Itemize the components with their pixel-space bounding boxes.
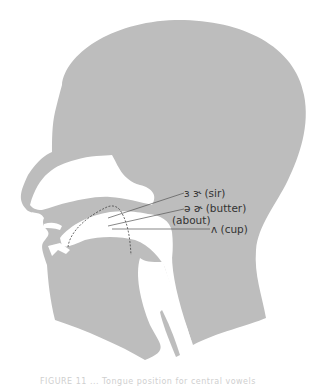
label-cup: ʌ (cup) (211, 224, 248, 235)
label-butter: ə ɚ (butter) (184, 203, 246, 214)
label-about: (about) (172, 215, 211, 226)
figure-caption: FIGURE 11 ... Tongue position for centra… (40, 377, 290, 386)
label-sir: ɜ ɝ (sir) (184, 188, 225, 199)
epiglottis (160, 310, 180, 357)
